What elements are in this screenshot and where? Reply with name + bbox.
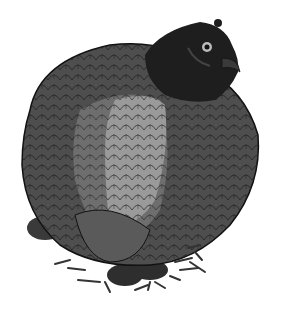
hen-head (145, 19, 240, 102)
hen-illustration (0, 0, 282, 323)
